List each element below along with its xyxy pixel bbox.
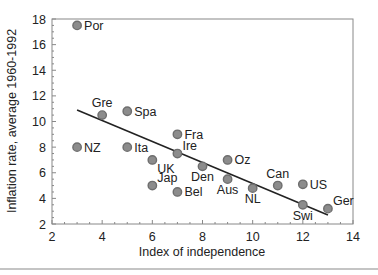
x-tick-label: 14 bbox=[346, 230, 360, 244]
data-point-swi: Swi bbox=[293, 201, 313, 223]
point-marker bbox=[248, 184, 256, 192]
x-tick-label: 8 bbox=[199, 230, 206, 244]
data-point-por: Por bbox=[73, 19, 104, 33]
point-marker bbox=[98, 111, 106, 119]
y-tick-label: 10 bbox=[32, 115, 46, 129]
x-tick-label: 6 bbox=[149, 230, 156, 244]
y-tick-label: 6 bbox=[39, 166, 46, 180]
y-axis-label: Inflation rate, average 1960-1992 bbox=[5, 29, 19, 213]
scatter-chart: 246810121424681012141618 PorGreSpaNZItaF… bbox=[0, 0, 378, 275]
point-marker bbox=[148, 181, 156, 189]
point-label: Ire bbox=[182, 139, 197, 153]
point-marker bbox=[173, 130, 181, 138]
point-label: Oz bbox=[235, 153, 251, 167]
x-tick-label: 4 bbox=[99, 230, 106, 244]
point-label: Den bbox=[191, 170, 214, 184]
point-label: Aus bbox=[217, 183, 239, 197]
point-marker bbox=[223, 175, 231, 183]
axes bbox=[52, 19, 353, 224]
y-tick-label: 18 bbox=[32, 13, 46, 27]
data-point-ita: Ita bbox=[123, 141, 148, 155]
point-marker bbox=[173, 149, 181, 157]
point-marker bbox=[198, 162, 206, 170]
point-marker bbox=[73, 143, 81, 151]
data-point-nz: NZ bbox=[73, 141, 101, 155]
point-marker bbox=[123, 143, 131, 151]
data-point-nl: NL bbox=[245, 184, 261, 206]
data-point-gre: Gre bbox=[92, 96, 113, 119]
point-label: Ger bbox=[333, 194, 354, 208]
point-label: Por bbox=[84, 19, 103, 33]
y-tick-label: 4 bbox=[39, 192, 46, 206]
point-label: Jap bbox=[157, 171, 177, 185]
point-label: Bel bbox=[184, 185, 202, 199]
y-tick-label: 16 bbox=[32, 38, 46, 52]
data-point-ger: Ger bbox=[324, 194, 354, 213]
data-point-oz: Oz bbox=[223, 153, 250, 167]
point-marker bbox=[148, 156, 156, 164]
point-label: Swi bbox=[293, 209, 313, 223]
point-label: US bbox=[310, 178, 327, 192]
point-marker bbox=[274, 181, 282, 189]
data-point-can: Can bbox=[266, 167, 289, 190]
point-marker bbox=[73, 21, 81, 29]
point-label: NZ bbox=[84, 141, 101, 155]
y-tick-label: 2 bbox=[39, 218, 46, 232]
point-label: Can bbox=[266, 167, 289, 181]
x-tick-label: 2 bbox=[49, 230, 56, 244]
data-point-us: US bbox=[299, 178, 328, 192]
point-marker bbox=[123, 107, 131, 115]
point-marker bbox=[173, 188, 181, 196]
data-point-aus: Aus bbox=[217, 175, 239, 197]
point-marker bbox=[223, 156, 231, 164]
x-axis-label: Index of independence bbox=[139, 245, 266, 259]
y-tick-label: 12 bbox=[32, 89, 46, 103]
data-point-jap: Jap bbox=[148, 171, 177, 190]
y-tick-label: 8 bbox=[39, 141, 46, 155]
data-points: PorGreSpaNZItaFraIreUKDenOzJapBelAusNLCa… bbox=[73, 19, 354, 223]
point-label: Spa bbox=[134, 105, 156, 119]
point-label: Ita bbox=[134, 141, 148, 155]
point-marker bbox=[324, 204, 332, 212]
data-point-bel: Bel bbox=[173, 185, 202, 199]
point-label: NL bbox=[245, 192, 261, 206]
plot-frame bbox=[52, 19, 353, 224]
point-label: Gre bbox=[92, 96, 113, 110]
x-tick-label: 10 bbox=[246, 230, 260, 244]
y-tick-label: 14 bbox=[32, 64, 46, 78]
point-marker bbox=[299, 201, 307, 209]
data-point-spa: Spa bbox=[123, 105, 156, 119]
x-tick-label: 12 bbox=[296, 230, 310, 244]
point-marker bbox=[299, 180, 307, 188]
